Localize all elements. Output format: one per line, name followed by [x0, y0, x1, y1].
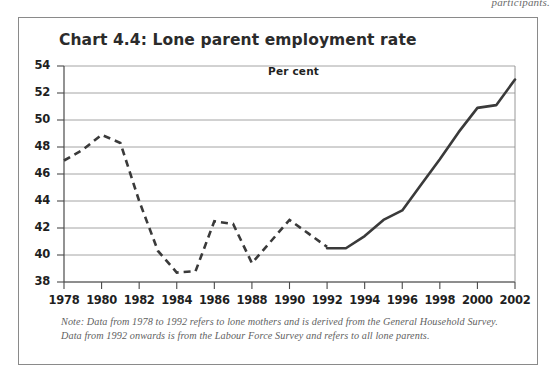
page-canvas: participants. Chart 4.4: Lone parent emp… [0, 0, 554, 386]
x-axis-ticks [64, 282, 515, 289]
chart-note-line-2: Data from 1992 onwards is from the Labou… [61, 329, 513, 343]
y-tick-label: 38 [26, 274, 50, 288]
y-tick-label: 50 [26, 112, 50, 126]
x-tick-label: 1990 [270, 293, 310, 307]
x-tick-label: 1996 [382, 293, 422, 307]
y-tick-label: 40 [26, 247, 50, 261]
x-tick-label: 2002 [495, 293, 535, 307]
y-axis-ticks [57, 66, 64, 282]
y-tick-label: 52 [26, 85, 50, 99]
x-tick-label: 1986 [194, 293, 234, 307]
x-tick-label: 1984 [157, 293, 197, 307]
x-tick-label: 1994 [345, 293, 385, 307]
chart-svg [19, 18, 539, 366]
x-tick-label: 2000 [457, 293, 497, 307]
series-line-dashed [64, 135, 327, 273]
x-tick-label: 1998 [420, 293, 460, 307]
x-tick-label: 1992 [307, 293, 347, 307]
y-tick-label: 46 [26, 166, 50, 180]
chart-note: Note: Data from 1978 to 1992 refers to l… [61, 315, 513, 343]
series-line-solid [327, 80, 515, 249]
running-head-fragment: participants. [300, 0, 550, 8]
x-tick-label: 1988 [232, 293, 272, 307]
x-tick-label: 1980 [82, 293, 122, 307]
y-tick-label: 42 [26, 220, 50, 234]
plot-area: 384042444648505254 197819801982198419861… [19, 18, 539, 366]
y-tick-label: 48 [26, 139, 50, 153]
chart-note-line-1: Note: Data from 1978 to 1992 refers to l… [61, 315, 513, 329]
chart-panel: Chart 4.4: Lone parent employment rate P… [18, 17, 538, 365]
x-tick-label: 1978 [44, 293, 84, 307]
y-tick-label: 44 [26, 193, 50, 207]
x-tick-label: 1982 [119, 293, 159, 307]
y-tick-label: 54 [26, 58, 50, 72]
